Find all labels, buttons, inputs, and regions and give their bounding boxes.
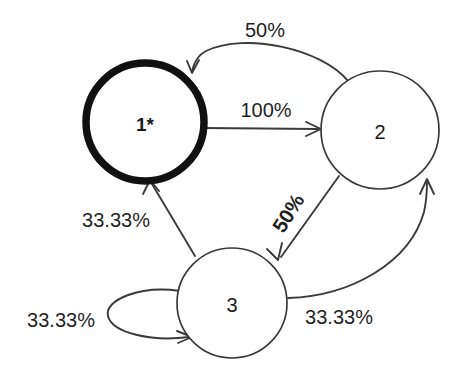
state-diagram-canvas: 50% 100% 50% 33.33% 33.33% [0,0,463,380]
edge-3-to-2[interactable]: 33.33% [288,179,434,328]
edge-1-to-2[interactable]: 100% [204,99,321,136]
node-state-2[interactable]: 2 [321,71,439,189]
edge-label-3-to-2: 33.33% [305,306,373,328]
node-state-3-label: 3 [226,294,237,316]
node-state-2-label: 2 [374,121,385,143]
edge-3-to-1[interactable]: 33.33% [82,180,195,256]
edge-label-2-to-1: 50% [245,19,285,41]
edge-2-to-3[interactable]: 50% [267,176,339,260]
edge-label-2-to-3: 50% [267,190,308,237]
node-state-1[interactable]: 1* [86,63,204,181]
edge-2-to-1[interactable]: 50% [187,19,348,81]
state-machine-svg: 50% 100% 50% 33.33% 33.33% [0,0,463,380]
edge-2-to-1-path [192,43,348,81]
edge-1-to-2-path [204,128,318,129]
edge-3-to-2-path [288,182,427,298]
node-state-3[interactable]: 3 [177,248,287,358]
node-state-1-label: 1* [136,114,155,135]
edge-label-3-to-1: 33.33% [82,209,150,231]
edge-3-to-3[interactable]: 33.33% [27,290,192,343]
edge-3-to-1-path [152,184,195,256]
edge-2-to-3-arrowhead [267,243,282,260]
edge-label-3-to-3: 33.33% [27,309,95,331]
edge-label-1-to-2: 100% [240,99,291,121]
